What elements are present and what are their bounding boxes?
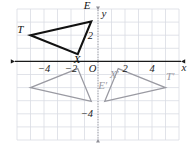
x-axis-arrow [11,59,15,63]
triangle-tex [31,21,92,54]
x-axis-tick-label: 2 [122,63,128,74]
x-axis-tick-label: −2 [65,63,78,74]
x-axis-label: x [181,61,187,73]
vertex-label: T [17,23,24,35]
x-axis-tick-label: O [89,63,97,74]
vertex-label: E [83,0,91,11]
x-axis-tick-label: −4 [38,63,51,74]
vertex-label: X′ [109,68,120,80]
x-axis-tick-label: 4 [149,63,155,74]
y-axis-label: y [101,7,107,19]
y-axis-tick-label: 2 [88,30,94,41]
graph-svg: TEXT′E′X′−4−2O242−4xy [0,0,191,148]
y-axis-arrow [96,7,100,10]
coordinate-plane-figure: TEXT′E′X′−4−2O242−4xy [0,0,191,148]
vertex-label: E′ [97,79,108,91]
vertex-label: T′ [166,70,175,82]
y-axis-tick-label: −4 [81,108,94,119]
labels-layer: TEXT′E′X′−4−2O242−4xy [17,0,186,119]
y-axis-arrow [96,139,100,142]
